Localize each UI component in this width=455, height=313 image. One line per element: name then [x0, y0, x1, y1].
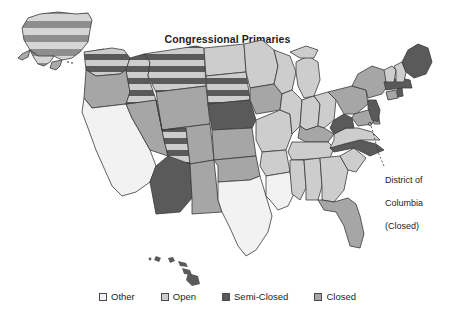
state-oregon	[84, 70, 130, 108]
state-oklahoma	[214, 156, 260, 182]
alaska-aleutian-dots	[67, 61, 73, 64]
state-kentucky	[298, 126, 334, 142]
state-nebraska	[208, 100, 256, 130]
legend-label-open: Open	[173, 291, 196, 302]
legend-swatch-open	[161, 293, 169, 301]
state-hawaii	[149, 256, 200, 286]
legend-label-closed: Closed	[326, 291, 356, 302]
legend-swatch-semi-closed	[222, 293, 230, 301]
legend-item-open: Open	[161, 291, 196, 302]
state-indiana	[300, 96, 320, 130]
state-connecticut	[386, 90, 398, 100]
state-mississippi	[290, 160, 306, 200]
legend-item-other: Other	[99, 291, 135, 302]
state-alabama	[304, 158, 322, 200]
state-kansas	[212, 128, 256, 160]
state-missouri	[256, 110, 292, 152]
state-arizona	[150, 156, 192, 214]
state-north-dakota	[204, 44, 246, 76]
legend-label-semi-closed: Semi-Closed	[234, 291, 288, 302]
state-montana	[144, 46, 206, 92]
map-figure: Congressional Primaries	[0, 0, 455, 313]
state-texas	[218, 176, 272, 256]
legend-item-closed: Closed	[314, 291, 356, 302]
dc-annotation: District of Columbia (Closed)	[385, 163, 423, 244]
legend-item-semi-closed: Semi-Closed	[222, 291, 288, 302]
state-new-mexico	[190, 160, 222, 214]
state-south-dakota	[206, 72, 250, 104]
state-wisconsin	[274, 50, 296, 94]
us-choropleth-map	[0, 0, 455, 313]
state-florida	[318, 198, 364, 248]
legend-swatch-other	[99, 293, 107, 301]
state-louisiana	[266, 172, 294, 210]
state-alaska	[18, 12, 92, 70]
state-vermont	[384, 66, 396, 82]
legend-swatch-closed	[314, 293, 322, 301]
state-rhode-island	[397, 88, 403, 97]
dc-annotation-line-2: Columbia	[385, 198, 423, 210]
legend-label-other: Other	[111, 291, 135, 302]
state-district-of-columbia	[368, 122, 371, 125]
legend: Other Open Semi-Closed Closed	[0, 291, 455, 302]
state-wyoming	[156, 86, 210, 130]
dc-annotation-line-1: District of	[385, 175, 423, 187]
dc-annotation-line-3: (Closed)	[385, 221, 423, 233]
state-maine	[402, 44, 432, 78]
state-minnesota	[244, 40, 278, 88]
state-arkansas	[260, 150, 290, 176]
